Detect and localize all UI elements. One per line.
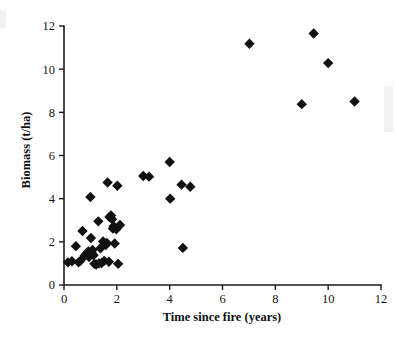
x-tick-label: 6: [219, 292, 225, 306]
data-point-group: [63, 28, 360, 269]
data-point-marker: [178, 243, 188, 253]
data-point-marker: [71, 241, 81, 251]
y-tick-label: 6: [49, 149, 55, 163]
y-tick-label: 12: [43, 19, 56, 33]
x-tick-label: 10: [322, 292, 335, 306]
data-point-marker: [176, 179, 186, 189]
data-point-marker: [110, 238, 120, 248]
data-point-marker: [85, 192, 95, 202]
data-point-marker: [86, 233, 96, 243]
data-point-marker: [112, 181, 122, 191]
y-tick-label: 0: [49, 278, 55, 292]
y-tick-label: 4: [49, 192, 56, 206]
x-tick-label: 2: [114, 292, 120, 306]
data-point-marker: [102, 177, 112, 187]
y-tick-label: 8: [49, 106, 55, 120]
data-point-marker: [349, 96, 359, 106]
data-point-marker: [113, 259, 123, 269]
data-point-marker: [165, 193, 175, 203]
x-axis-title: Time since fire (years): [163, 310, 282, 324]
data-point-marker: [164, 157, 174, 167]
data-point-marker: [308, 28, 318, 38]
data-point-marker: [77, 226, 87, 236]
scatter-chart-figure: 024681012 024681012 Time since fire (yea…: [0, 0, 399, 341]
x-tick-label: 0: [61, 292, 67, 306]
x-tick-label: 8: [272, 292, 278, 306]
x-tick-label: 4: [167, 292, 174, 306]
x-tick-label: 12: [375, 292, 388, 306]
x-axis-ticks: 024681012: [61, 285, 387, 306]
axis-frame: [64, 26, 381, 285]
data-point-marker: [93, 216, 103, 226]
y-tick-label: 2: [49, 235, 55, 249]
data-point-marker: [323, 58, 333, 68]
plot-canvas: 024681012 024681012 Time since fire (yea…: [0, 0, 399, 341]
data-point-marker: [297, 99, 307, 109]
data-point-marker: [244, 38, 254, 48]
data-point-marker: [185, 182, 195, 192]
y-tick-label: 10: [43, 63, 56, 77]
y-axis-title: Biomass (t/ha): [19, 112, 33, 189]
y-axis-ticks: 024681012: [43, 19, 65, 292]
